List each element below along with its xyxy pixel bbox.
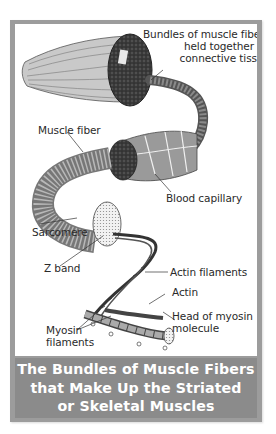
label-head-of-myosin-line-2: molecule [172, 322, 253, 334]
label-head-of-myosin-line-1: Head of myosin [172, 310, 253, 322]
fascicle [109, 130, 197, 181]
caption-line-3: or Skeletal Muscles [57, 397, 214, 416]
label-bundles: Bundles of muscle fibers held together b… [143, 28, 257, 64]
figure-frame: Bundles of muscle fibers held together b… [10, 20, 262, 422]
caption-line-2: that Make Up the Striated [30, 379, 241, 398]
label-head-of-myosin: Head of myosin molecule [172, 310, 253, 334]
label-actin-filaments: Actin filaments [170, 266, 247, 278]
label-z-band: Z band [44, 262, 80, 274]
actin-strand [95, 234, 156, 314]
caption-line-1: The Bundles of Muscle Fibers [17, 360, 254, 379]
label-muscle-fiber: Muscle fiber [38, 124, 101, 136]
leader-lines [39, 70, 175, 330]
illustration-panel: Bundles of muscle fibers held together b… [15, 24, 257, 356]
label-myosin-filaments: Myosin filaments [46, 324, 94, 348]
myofibril-cross-section [93, 202, 121, 246]
muscle-illustration [15, 24, 257, 356]
label-blood-capillary: Blood capillary [166, 192, 242, 204]
whole-muscle [22, 34, 152, 106]
label-bundles-line-2: held together by [143, 40, 257, 52]
filament-bundle [85, 310, 174, 350]
label-myosin-filaments-line-1: Myosin [46, 324, 94, 336]
label-actin: Actin [172, 286, 198, 298]
label-myosin-filaments-line-2: filaments [46, 336, 94, 348]
label-sarcomere: Sarcomere [32, 226, 88, 238]
label-bundles-line-3: connective tissue [143, 52, 257, 64]
label-bundles-line-1: Bundles of muscle fibers [143, 28, 257, 40]
figure-caption: The Bundles of Muscle Fibers that Make U… [15, 358, 257, 418]
myosin-strand [101, 238, 152, 316]
